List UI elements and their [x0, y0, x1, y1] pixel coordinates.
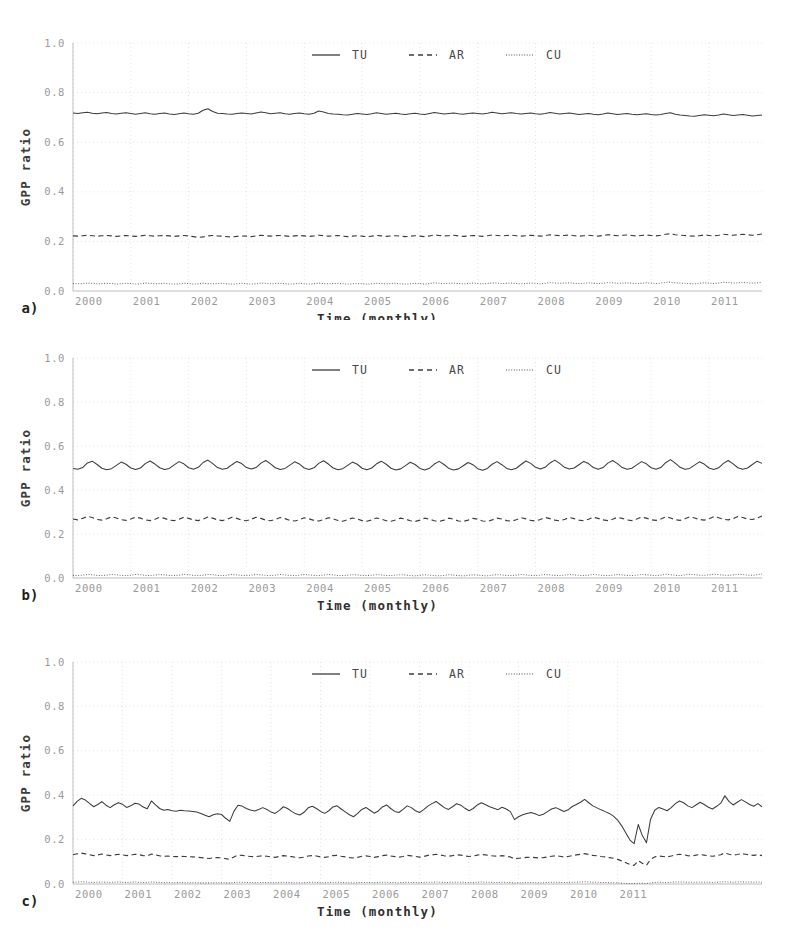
x-tick-label: 2006: [422, 582, 450, 594]
x-tick-label: 2011: [711, 295, 739, 307]
x-tick-label: 2009: [595, 295, 623, 307]
legend-label-cu: CU: [546, 363, 562, 377]
x-tick-label: 2000: [75, 582, 103, 594]
y-tick-label: 0.4: [44, 185, 65, 197]
y-tick-label: 0.6: [44, 744, 65, 756]
series-line-ar: [73, 853, 762, 865]
x-tick-label: 2010: [653, 295, 681, 307]
x-tick-label: 2006: [372, 888, 400, 900]
x-tick-label: 2007: [422, 888, 450, 900]
panel-label: a): [22, 300, 39, 316]
x-tick-label: 2001: [133, 295, 161, 307]
x-tick-label: 2008: [471, 888, 499, 900]
x-tick-label: 2002: [191, 582, 219, 594]
chart-panel-b: 0.00.20.40.60.81.02000200120022003200420…: [0, 318, 799, 626]
series-line-cu: [73, 882, 762, 884]
y-tick-label: 0.8: [44, 700, 65, 712]
gpp-ratio-figure: 0.00.20.40.60.81.02000200120022003200420…: [0, 0, 799, 946]
x-tick-label: 2007: [480, 582, 508, 594]
series-line-ar: [73, 234, 762, 238]
y-tick-label: 0.2: [44, 833, 65, 845]
panel-b-svg: 0.00.20.40.60.81.02000200120022003200420…: [0, 318, 799, 626]
series-line-cu: [73, 574, 762, 576]
x-tick-label: 2008: [538, 582, 566, 594]
x-tick-label: 2005: [364, 295, 392, 307]
x-tick-label: 2009: [521, 888, 549, 900]
x-tick-label: 2009: [595, 582, 623, 594]
legend-label-cu: CU: [546, 48, 562, 62]
x-tick-label: 2002: [191, 295, 219, 307]
x-tick-label: 2004: [273, 888, 301, 900]
x-tick-label: 2011: [711, 582, 739, 594]
x-tick-label: 2003: [248, 582, 276, 594]
legend-label-cu: CU: [546, 667, 562, 681]
x-tick-label: 2005: [323, 888, 351, 900]
legend-label-ar: AR: [449, 363, 465, 377]
x-tick-label: 2011: [620, 888, 648, 900]
x-tick-label: 2005: [364, 582, 392, 594]
legend-label-tu: TU: [352, 363, 368, 377]
x-axis-title: Time (monthly): [317, 598, 438, 613]
panel-a-svg: 0.00.20.40.60.81.02000200120022003200420…: [0, 0, 799, 320]
y-tick-label: 0.4: [44, 484, 65, 496]
series-line-tu: [73, 796, 762, 844]
x-tick-label: 2002: [174, 888, 202, 900]
y-tick-label: 0.6: [44, 440, 65, 452]
x-tick-label: 2001: [133, 582, 161, 594]
x-tick-label: 2010: [570, 888, 598, 900]
y-axis-title: GPP ratio: [18, 734, 33, 813]
legend-label-tu: TU: [352, 48, 368, 62]
x-tick-label: 2008: [538, 295, 566, 307]
y-tick-label: 0.0: [44, 572, 65, 584]
y-tick-label: 0.2: [44, 528, 65, 540]
x-tick-label: 2007: [480, 295, 508, 307]
chart-panel-c: 0.00.20.40.60.81.02000200120022003200420…: [0, 624, 799, 946]
series-line-ar: [73, 516, 762, 522]
panel-label: b): [22, 587, 39, 603]
y-tick-label: 0.8: [44, 396, 65, 408]
y-axis-title: GPP ratio: [18, 128, 33, 207]
y-tick-label: 1.0: [44, 352, 65, 364]
x-tick-label: 2000: [75, 888, 103, 900]
x-tick-label: 2001: [125, 888, 153, 900]
x-tick-label: 2004: [306, 582, 334, 594]
x-axis-title: Time (monthly): [317, 904, 438, 919]
panel-c-svg: 0.00.20.40.60.81.02000200120022003200420…: [0, 624, 799, 946]
y-tick-label: 0.2: [44, 235, 65, 247]
legend-label-ar: AR: [449, 667, 465, 681]
panel-label: c): [22, 893, 39, 909]
x-tick-label: 2003: [224, 888, 252, 900]
series-line-tu: [73, 460, 762, 471]
series-line-tu: [73, 109, 762, 116]
y-tick-label: 0.6: [44, 136, 65, 148]
legend-label-ar: AR: [449, 48, 465, 62]
series-line-cu: [73, 282, 762, 284]
y-tick-label: 0.4: [44, 789, 65, 801]
x-tick-label: 2004: [306, 295, 334, 307]
y-tick-label: 0.0: [44, 285, 65, 297]
y-tick-label: 0.8: [44, 86, 65, 98]
chart-panel-a: 0.00.20.40.60.81.02000200120022003200420…: [0, 0, 799, 320]
legend-label-tu: TU: [352, 667, 368, 681]
y-axis-title: GPP ratio: [18, 429, 33, 508]
y-tick-label: 1.0: [44, 656, 65, 668]
x-tick-label: 2010: [653, 582, 681, 594]
x-tick-label: 2000: [75, 295, 103, 307]
x-tick-label: 2006: [422, 295, 450, 307]
y-tick-label: 1.0: [44, 37, 65, 49]
y-tick-label: 0.0: [44, 878, 65, 890]
x-tick-label: 2003: [248, 295, 276, 307]
